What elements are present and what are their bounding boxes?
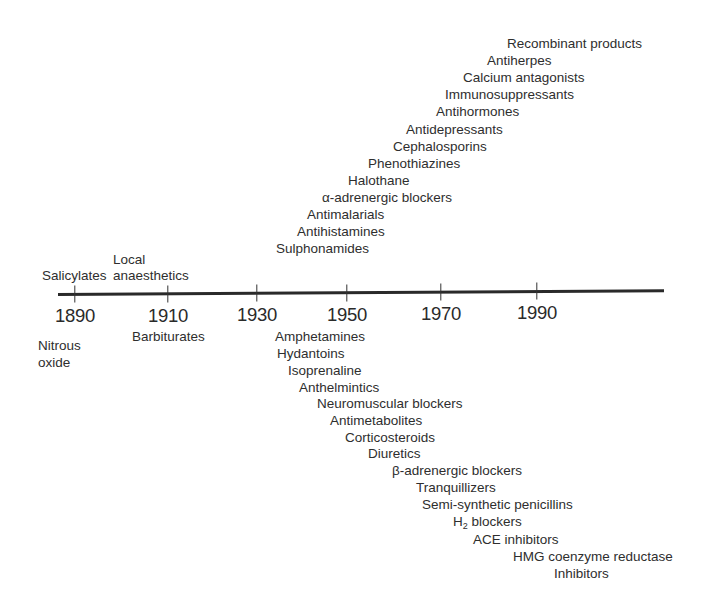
label-sulphonamides: Sulphonamides [276,241,369,257]
label-local: Local [113,252,145,268]
label-h2-blockers: H2 blockers [453,514,522,530]
label-antimalarials: Antimalarials [307,207,384,223]
label-halothane: Halothane [348,173,410,189]
drug-discovery-timeline: 189019101930195019701990 SalicylatesLoca… [0,0,716,608]
label-adrenergic-blockers: α-adrenergic blockers [322,190,452,206]
label-barbiturates: Barbiturates [132,329,205,345]
label-anaesthetics: anaesthetics [113,268,189,284]
year-label-1930: 1930 [237,305,277,325]
tick-1990 [536,283,537,300]
label-hmg-coenzyme-reductase: HMG coenzyme reductase [513,549,673,565]
tick-1930 [256,285,257,302]
label-inhibitors: Inhibitors [554,566,609,582]
label-hydantoins: Hydantoins [277,346,345,362]
timeline-axis [58,289,664,295]
label-oxide: oxide [38,355,70,371]
label-part: blockers [468,514,522,529]
tick-1950 [346,285,347,302]
label-corticosteroids: Corticosteroids [345,430,435,446]
label-neuromuscular-blockers: Neuromuscular blockers [317,396,463,412]
label-adrenergic-blockers: β-adrenergic blockers [392,463,522,479]
year-label-1970: 1970 [421,304,461,324]
year-label-1910: 1910 [148,306,188,326]
label-semi-synthetic-penicillins: Semi-synthetic penicillins [422,497,573,513]
label-antihormones: Antihormones [436,104,519,120]
label-antidepressants: Antidepressants [406,122,503,138]
label-immunosuppressants: Immunosuppressants [445,87,574,103]
label-amphetamines: Amphetamines [275,329,365,345]
tick-1910 [167,286,168,303]
label-diuretics: Diuretics [368,446,421,462]
label-phenothiazines: Phenothiazines [368,156,460,172]
label-tranquillizers: Tranquillizers [416,480,496,496]
label-antiherpes: Antiherpes [487,53,552,69]
label-salicylates: Salicylates [42,268,107,284]
label-nitrous: Nitrous [38,338,81,354]
year-label-1990: 1990 [517,303,557,323]
label-part: H [453,514,463,529]
label-cephalosporins: Cephalosporins [393,139,487,155]
label-recombinant-products: Recombinant products [507,36,642,52]
tick-1970 [440,284,441,301]
label-isoprenaline: Isoprenaline [288,363,362,379]
label-calcium-antagonists: Calcium antagonists [463,70,585,86]
label-anthelmintics: Anthelmintics [299,380,379,396]
label-antimetabolites: Antimetabolites [330,413,422,429]
label-antihistamines: Antihistamines [297,224,385,240]
label-ace-inhibitors: ACE inhibitors [473,532,559,548]
year-label-1950: 1950 [327,305,367,325]
year-label-1890: 1890 [55,306,95,326]
tick-1890 [74,286,75,303]
